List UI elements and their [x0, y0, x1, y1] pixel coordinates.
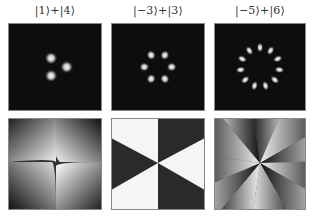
phase-panel-2	[111, 118, 205, 210]
intensity-panel-2	[111, 23, 205, 111]
phase-panel-1	[8, 118, 102, 210]
phase-pattern-2	[112, 119, 204, 209]
phase-pattern-1	[9, 119, 101, 209]
intensity-pattern-3	[215, 24, 305, 110]
column-label-2: |−3⟩+|3⟩	[110, 4, 206, 17]
phase-panel-3	[214, 118, 306, 210]
column-label-1: |1⟩+|4⟩	[7, 4, 103, 17]
column-label-3: |−5⟩+|6⟩	[212, 4, 308, 17]
intensity-pattern-1	[9, 24, 101, 110]
intensity-panel-3	[214, 23, 306, 111]
phase-pattern-3	[215, 119, 305, 209]
intensity-pattern-2	[112, 24, 204, 110]
intensity-panel-1	[8, 23, 102, 111]
